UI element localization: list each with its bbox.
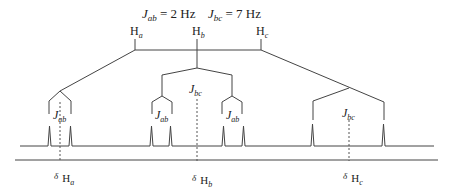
nucleus-label-hc: Hc: [256, 24, 269, 40]
jab-value-label: Jab = 2 Hz: [142, 6, 196, 23]
jbc-value-label: Jbc = 7 Hz: [208, 6, 261, 23]
shift-label-hb: δHb: [192, 173, 212, 189]
chemical-shift-markers: [60, 99, 349, 161]
splitting-tree-lines: [49, 39, 384, 120]
coupling-label-hc-jbc: Jbc: [342, 106, 355, 122]
shift-label-hc: δHc: [343, 171, 363, 187]
nucleus-label-hb: Hb: [192, 24, 205, 40]
coupling-label-hb-jbc: Jbc: [189, 82, 202, 98]
spectrum-trace: [15, 124, 438, 160]
coupling-label-hb-left-jab: Jab: [155, 108, 168, 124]
shift-label-ha: δHa: [54, 171, 74, 187]
splitting-tree-diagram: Jab = 2 Hz Jbc = 7 Hz Ha Hb Hc Jab Jb: [0, 0, 451, 196]
coupling-label-hb-right-jab: Jab: [226, 108, 239, 124]
nucleus-label-ha: Ha: [130, 24, 143, 40]
